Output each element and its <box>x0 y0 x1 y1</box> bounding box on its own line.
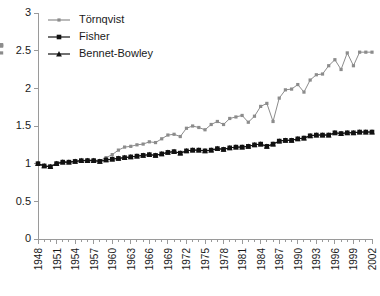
data-point-marker <box>265 102 268 105</box>
data-point-marker <box>179 135 182 138</box>
y-tick-label: 0.5 <box>16 195 31 207</box>
x-tick-label: 1951 <box>52 248 63 271</box>
data-point-marker <box>278 97 281 100</box>
data-point-marker <box>57 18 60 21</box>
x-tick-label: 1990 <box>293 248 304 271</box>
x-tick-label: 1960 <box>107 248 118 271</box>
x-tick-label: 1975 <box>200 248 211 271</box>
data-point-marker <box>222 123 225 126</box>
data-point-marker <box>166 133 169 136</box>
y-tick-label: 0 <box>25 232 31 244</box>
series-bennet-bowley <box>35 129 375 169</box>
data-point-marker <box>296 83 299 86</box>
data-point-marker <box>253 115 256 118</box>
data-point-marker <box>302 91 305 94</box>
data-point-marker <box>358 51 361 54</box>
data-point-marker <box>57 35 62 40</box>
x-tick-label: 2002 <box>367 248 378 271</box>
data-point-marker <box>284 88 287 91</box>
data-point-marker <box>290 87 293 90</box>
x-tick-label: 1957 <box>89 248 100 271</box>
data-point-marker <box>197 126 200 129</box>
x-tick-label: 1948 <box>33 248 44 271</box>
data-point-marker <box>160 137 163 140</box>
data-point-marker <box>172 133 175 136</box>
x-tick-label: 1972 <box>181 248 192 271</box>
x-tick-label: 1978 <box>219 248 230 271</box>
data-point-marker <box>185 127 188 130</box>
y-tick-label: 2.5 <box>16 44 31 56</box>
legend-entry: Fisher <box>48 30 110 42</box>
chart-canvas: 00.511.522.53194819511954195719601963196… <box>0 0 380 296</box>
data-point-marker <box>148 140 151 143</box>
data-point-marker <box>333 58 336 61</box>
data-point-marker <box>129 145 132 148</box>
data-point-marker <box>117 149 120 152</box>
data-point-marker <box>191 124 194 127</box>
y-tick-label: 3 <box>25 6 31 18</box>
data-point-marker <box>259 105 262 108</box>
data-point-marker <box>370 51 373 54</box>
data-point-marker <box>327 64 330 67</box>
data-point-marker <box>321 72 324 75</box>
x-tick-label: 1981 <box>237 248 248 271</box>
legend-entry: Bennet-Bowley <box>48 47 153 59</box>
legend-label: Törnqvist <box>79 13 124 25</box>
x-tick-label: 1954 <box>70 248 81 271</box>
data-point-marker <box>111 153 114 156</box>
data-point-marker <box>241 114 244 117</box>
data-point-marker <box>271 120 274 123</box>
data-point-marker <box>123 145 126 148</box>
x-tick-label: 1987 <box>274 248 285 271</box>
data-point-marker <box>142 142 145 145</box>
x-tick-label: 1993 <box>311 248 322 271</box>
x-tick-label: 1984 <box>256 248 267 271</box>
legend-entry: Törnqvist <box>48 13 124 25</box>
data-point-marker <box>203 128 206 131</box>
data-point-marker <box>228 117 231 120</box>
data-point-marker <box>352 64 355 67</box>
x-tick-label: 1966 <box>144 248 155 271</box>
data-point-marker <box>135 143 138 146</box>
x-tick-label: 1999 <box>348 248 359 271</box>
data-point-marker <box>339 68 342 71</box>
data-point-marker <box>309 78 312 81</box>
data-point-marker <box>364 51 367 54</box>
legend-label: Bennet-Bowley <box>79 47 153 59</box>
data-point-marker <box>216 120 219 123</box>
x-tick-label: 1969 <box>163 248 174 271</box>
legend: TörnqvistFisherBennet-Bowley <box>48 13 153 59</box>
data-point-marker <box>247 121 250 124</box>
data-point-marker <box>315 73 318 76</box>
data-point-marker <box>210 123 213 126</box>
x-tick-label: 1963 <box>126 248 137 271</box>
line-chart: 00.511.522.53194819511954195719601963196… <box>0 0 380 296</box>
y-tick-label: 2 <box>25 82 31 94</box>
y-tick-label: 1 <box>25 157 31 169</box>
legend-label: Fisher <box>79 30 110 42</box>
data-point-marker <box>0 51 3 54</box>
y-tick-label: 1.5 <box>16 119 31 131</box>
data-point-marker <box>154 141 157 144</box>
data-point-marker <box>234 115 237 118</box>
data-point-marker <box>0 43 3 46</box>
data-point-marker <box>346 51 349 54</box>
x-tick-label: 1996 <box>330 248 341 271</box>
